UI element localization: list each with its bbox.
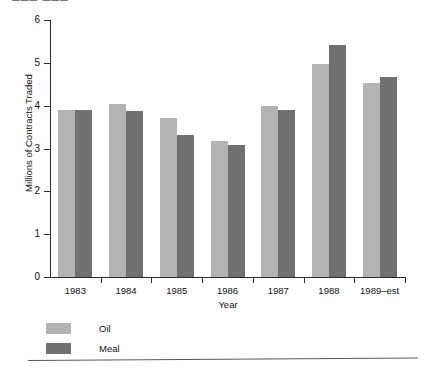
bar-meal-1986 [228,145,245,277]
y-axis-tick-label: 2 [0,186,40,196]
plot-area [50,20,405,277]
x-axis-label: 1989–est [354,285,405,296]
x-axis-tick [253,278,254,283]
legend-swatch-oil-icon [46,323,71,334]
chart-legend: Oil Meal [46,318,216,358]
bar-oil-1983 [58,110,75,277]
y-axis-tick-label: 6 [0,15,40,25]
x-axis-label: 1983 [50,285,101,296]
bar-oil-1985 [160,118,177,277]
bar-meal-1989est [380,77,397,277]
bar-meal-1983 [75,110,92,277]
x-axis-title: Year [50,299,406,310]
legend-item-oil: Oil [46,318,216,338]
x-axis-tick [354,278,355,283]
bar-meal-1987 [278,110,295,277]
y-axis-tick-label: 4 [0,101,40,111]
bar-oil-1988 [312,64,329,277]
legend-label-meal: Meal [99,343,120,354]
bar-oil-1986 [211,141,228,277]
y-axis-title: Millions of Contracts Traded [24,48,34,218]
y-axis-tick-label: 5 [0,58,40,68]
x-axis-label: 1985 [151,285,202,296]
bottom-divider [28,358,418,361]
y-axis-tick [44,277,51,278]
x-axis-label: 1988 [304,285,355,296]
y-axis-tick-label: 1 [0,229,40,239]
x-axis-tick [151,278,152,283]
bar-meal-1985 [177,135,194,277]
x-axis-label: 1984 [101,285,152,296]
x-axis-label: 1986 [202,285,253,296]
bar-meal-1988 [329,45,346,277]
y-axis-tick-label: 0 [0,272,40,282]
legend-label-oil: Oil [99,323,111,334]
x-axis-tick [405,278,406,283]
bar-chart: 0123456 1983198419851986198719881989–est… [0,0,427,373]
x-axis-tick [304,278,305,283]
y-axis-tick-label: 3 [0,144,40,154]
x-axis-tick [101,278,102,283]
legend-swatch-meal-icon [46,343,71,354]
bar-meal-1984 [126,111,143,277]
bar-oil-1989est [363,83,380,277]
x-axis-label: 1987 [253,285,304,296]
x-axis-tick [202,278,203,283]
bar-oil-1987 [261,106,278,277]
legend-item-meal: Meal [46,338,216,358]
bar-oil-1984 [109,104,126,277]
x-axis-line [50,277,406,278]
